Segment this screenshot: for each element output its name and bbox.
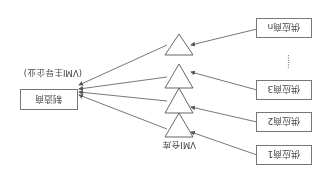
manufacturer-sublabel: (VMI主导企业) bbox=[24, 68, 82, 80]
supplier-1-box: 供应商1 bbox=[256, 145, 312, 165]
warehouse-triangle-4 bbox=[165, 34, 193, 55]
manufacturer-label: 制造商 bbox=[36, 93, 63, 106]
supplier-2-box: 供应商2 bbox=[256, 112, 312, 132]
supplier-3-label: 供应商3 bbox=[268, 84, 301, 97]
manufacturer-box: 制造商 bbox=[20, 89, 78, 110]
supplier-3-box: 供应商3 bbox=[256, 80, 312, 100]
warehouse-label: VMI仓库 bbox=[162, 140, 196, 152]
ellipsis: …… bbox=[285, 55, 289, 69]
supplier-1-label: 供应商1 bbox=[268, 149, 301, 162]
supplier-n-box: 供应商n bbox=[256, 18, 312, 38]
warehouse-triangles bbox=[165, 34, 193, 137]
supplier-2-label: 供应商2 bbox=[268, 116, 301, 129]
warehouse-triangle-1 bbox=[165, 113, 193, 137]
supplier-arrows bbox=[191, 29, 257, 155]
warehouse-triangle-3 bbox=[165, 64, 193, 88]
vmi-diagram: 供应商1 供应商2 供应商3 …… 供应商n VMI仓库 制造商 (VMI主导企… bbox=[0, 0, 327, 177]
warehouse-arrows bbox=[79, 45, 167, 129]
warehouse-triangle-2 bbox=[165, 88, 193, 113]
supplier-n-label: 供应商n bbox=[268, 22, 301, 35]
